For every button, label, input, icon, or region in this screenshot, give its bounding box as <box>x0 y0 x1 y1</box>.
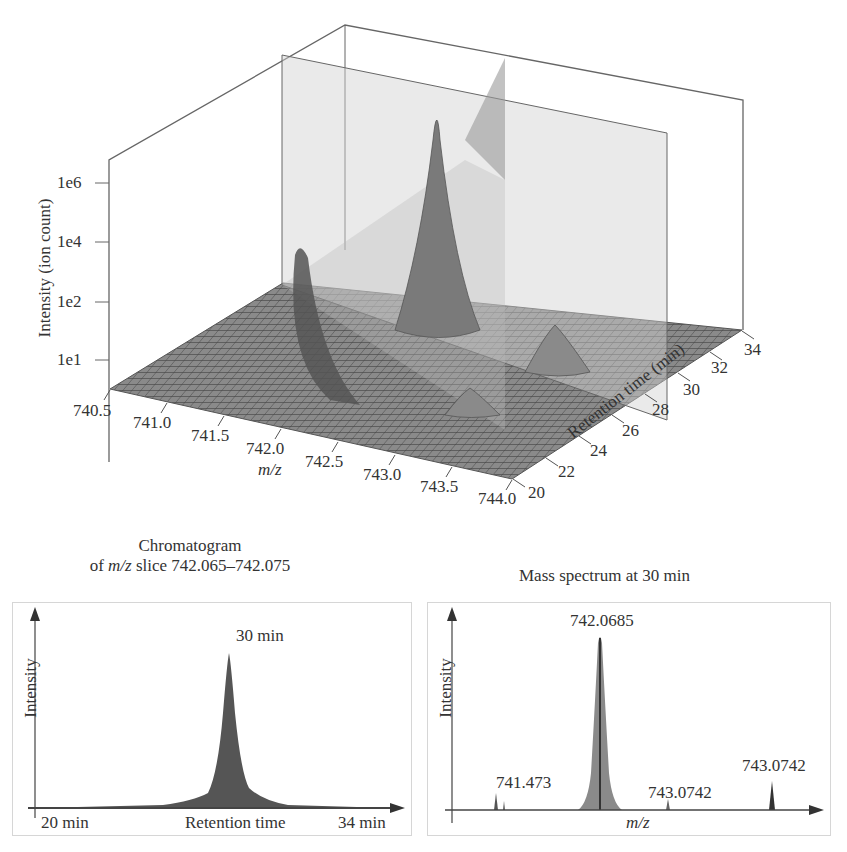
y-tick: 32 <box>711 358 728 378</box>
x-tick: 743.0 <box>363 465 401 485</box>
ms-xlabel: m/z <box>626 813 650 833</box>
x-tick: 741.5 <box>191 426 229 446</box>
x-tick: 743.5 <box>420 477 458 497</box>
chromatogram-xlabel: Retention time <box>185 813 286 833</box>
z-tick-1e4: 1e4 <box>57 232 82 252</box>
x-axis-title: m/z <box>258 460 282 480</box>
x-tick: 744.0 <box>478 489 516 509</box>
y-tick: 26 <box>622 421 639 441</box>
x-tick: 742.5 <box>305 452 343 472</box>
ms-peak-mid-label: 743.0742 <box>648 783 712 803</box>
mass-spectrum-panel: Intensity 742.0685 741.473 743.0742 743.… <box>427 602 831 836</box>
z-tick-1e6: 1e6 <box>57 173 82 193</box>
mass-spectrum-graphic <box>428 603 830 835</box>
x-tick: 741.0 <box>133 413 171 433</box>
ms-peak-right-label: 743.0742 <box>742 756 806 776</box>
ms-peak-left-label: 741.473 <box>496 773 551 793</box>
chromatogram-panel: Intensity 30 min 20 min Retention time 3… <box>12 602 412 836</box>
x-tick: 742.0 <box>246 439 284 459</box>
chromatogram-title: Chromatogram of m/z slice 742.065–742.07… <box>60 536 320 576</box>
title-suffix: slice 742.065–742.075 <box>132 556 291 575</box>
chromatogram-peak-label: 30 min <box>236 626 284 646</box>
title-prefix: of <box>90 556 108 575</box>
y-tick: 20 <box>528 483 545 503</box>
title-mz: m/z <box>108 556 132 575</box>
mass-spectrum-title: Mass spectrum at 30 min <box>519 566 690 586</box>
chromatogram-ylabel: Intensity <box>21 648 41 728</box>
z-tick-1e2: 1e2 <box>57 292 82 312</box>
chromatogram-x-start: 20 min <box>41 813 89 833</box>
chromatogram-x-end: 34 min <box>338 813 386 833</box>
ms-peak-main-label: 742.0685 <box>570 611 634 631</box>
surface-plot-3d: 1e6 1e4 1e2 1e1 Intensity (ion count) 74… <box>0 0 847 580</box>
z-tick-1e1: 1e1 <box>57 350 82 370</box>
y-tick: 34 <box>744 340 761 360</box>
chromatogram-graphic <box>13 603 411 835</box>
y-tick: 30 <box>683 380 700 400</box>
chromatogram-title-line1: Chromatogram <box>60 536 320 556</box>
y-tick: 28 <box>652 400 669 420</box>
ms-ylabel: Intensity <box>436 648 456 728</box>
y-tick: 22 <box>558 462 575 482</box>
z-axis-title: Intensity (ion count) <box>35 193 55 343</box>
x-tick: 740.5 <box>73 401 111 421</box>
y-tick: 24 <box>590 441 607 461</box>
chromatogram-title-line2: of m/z slice 742.065–742.075 <box>60 556 320 576</box>
